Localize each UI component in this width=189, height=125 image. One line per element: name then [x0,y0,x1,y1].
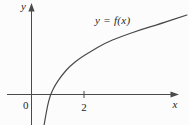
origin-label: 0 [23,99,29,111]
curve-label: y = f(x) [94,14,131,27]
x-axis-arrow-icon [171,91,180,97]
function-graph-figure: y x 0 2 y = f(x) [0,0,189,125]
x-axis-label: x [172,98,178,110]
function-graph-canvas: y x 0 2 y = f(x) [0,0,189,125]
y-axis-label: y [20,0,26,12]
x-tick-label: 2 [81,101,87,113]
function-curve [44,15,187,125]
y-axis-arrow-icon [28,3,34,12]
